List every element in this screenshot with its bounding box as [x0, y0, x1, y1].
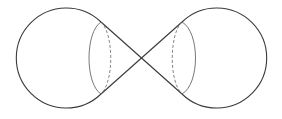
right-ellipse-hidden-arc [172, 22, 182, 94]
diagram-canvas [0, 0, 282, 119]
left-sphere-outline [16, 8, 101, 108]
left-ellipse-visible-arc [89, 22, 101, 94]
right-ellipse-visible-arc [182, 22, 196, 94]
double-cone-sphere-diagram [0, 0, 282, 119]
left-ellipse-hidden-arc [101, 22, 111, 94]
right-sphere-outline [182, 8, 267, 108]
